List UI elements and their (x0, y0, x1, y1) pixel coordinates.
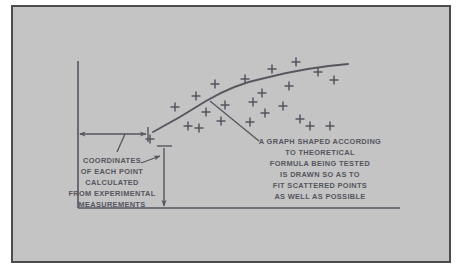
scatter-plot-figure: COORDINATES OF EACH POINT CALCULATED FRO… (0, 0, 461, 274)
x-coordinate-dimension (80, 127, 148, 142)
scatter-point (211, 80, 220, 89)
scatter-point (202, 108, 211, 117)
coordinates-annotation-line: MEASUREMENTS (78, 200, 145, 209)
fitted-curve-annotation-line: TO THEORETICAL (285, 148, 355, 157)
coordinates-annotation-line: CALCULATED (85, 178, 139, 187)
leader-line-to-x-dimension (117, 134, 125, 152)
coordinates-annotation: COORDINATES OF EACH POINT CALCULATED FRO… (68, 156, 155, 209)
coordinates-annotation-line: FROM EXPERIMENTAL (68, 189, 155, 198)
scatter-point (192, 92, 201, 101)
leader-lines (117, 101, 259, 163)
scatter-point (296, 115, 305, 124)
scatter-point (184, 122, 193, 131)
scatter-point (246, 118, 255, 127)
scatter-point (314, 68, 323, 77)
fitted-curve-annotation-line: FORMULA BEING TESTED (270, 159, 371, 168)
scatter-point (306, 122, 315, 131)
leader-line-to-y-dimension (141, 156, 160, 163)
scatter-point (195, 124, 204, 133)
scatter-point (279, 102, 288, 111)
scatter-point (146, 135, 155, 144)
scatter-point (258, 89, 267, 98)
fitted-curve-annotation-line: A GRAPH SHAPED ACCORDING (259, 137, 381, 146)
fitted-curve-annotation: A GRAPH SHAPED ACCORDING TO THEORETICAL … (259, 137, 381, 201)
coordinates-annotation-line: COORDINATES (83, 156, 141, 165)
scatter-point (268, 65, 277, 74)
scatter-point (285, 82, 294, 91)
fitted-curve-annotation-line: IS DRAWN SO AS TO (280, 170, 360, 179)
scatter-point (326, 122, 335, 131)
coordinates-annotation-line: OF EACH POINT (81, 167, 144, 176)
scatter-point (292, 58, 301, 67)
scatter-point (330, 76, 339, 85)
fitted-curve-annotation-line: FIT SCATTERED POINTS (273, 181, 367, 190)
scatter-point (217, 117, 226, 126)
scatter-point (261, 109, 270, 118)
scatter-point (221, 101, 230, 110)
scatter-points (146, 58, 339, 144)
figure-root: COORDINATES OF EACH POINT CALCULATED FRO… (0, 0, 461, 274)
scatter-point (249, 98, 258, 107)
scatter-point (171, 103, 180, 112)
y-coordinate-dimension (157, 146, 172, 206)
fitted-curve-annotation-line: AS WELL AS POSSIBLE (274, 192, 365, 201)
